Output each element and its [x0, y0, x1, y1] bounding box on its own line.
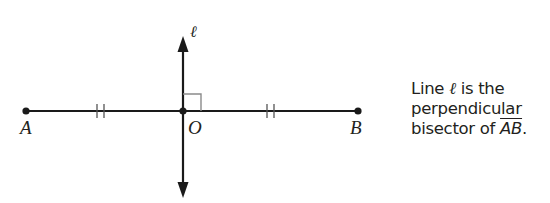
arrow-up-icon [178, 36, 189, 52]
point-b-label: B [350, 117, 362, 138]
point-b-dot [354, 107, 361, 114]
segment-ab-notation: AB [500, 119, 522, 138]
caption-text: is the [456, 79, 505, 98]
point-a-label: A [18, 117, 32, 138]
caption: Line ℓ is the perpendicular bisector of … [411, 79, 527, 139]
caption-text: bisector of [411, 119, 500, 138]
right-angle-marker-icon [183, 94, 201, 111]
point-o-label: O [188, 117, 202, 138]
point-a-dot [22, 107, 29, 114]
arrow-down-icon [178, 182, 189, 198]
caption-line-2: perpendicular [411, 99, 527, 119]
ell-symbol: ℓ [449, 79, 456, 98]
caption-line-1: Line ℓ is the [411, 79, 527, 99]
caption-text: . [522, 119, 527, 138]
caption-line-3: bisector of AB. [411, 119, 527, 139]
point-o-dot [179, 107, 186, 114]
perpendicular-bisector-figure: A O B ℓ Line ℓ is the perpendicular bise… [0, 0, 550, 203]
line-ell-label: ℓ [190, 22, 197, 41]
caption-text: Line [411, 79, 449, 98]
